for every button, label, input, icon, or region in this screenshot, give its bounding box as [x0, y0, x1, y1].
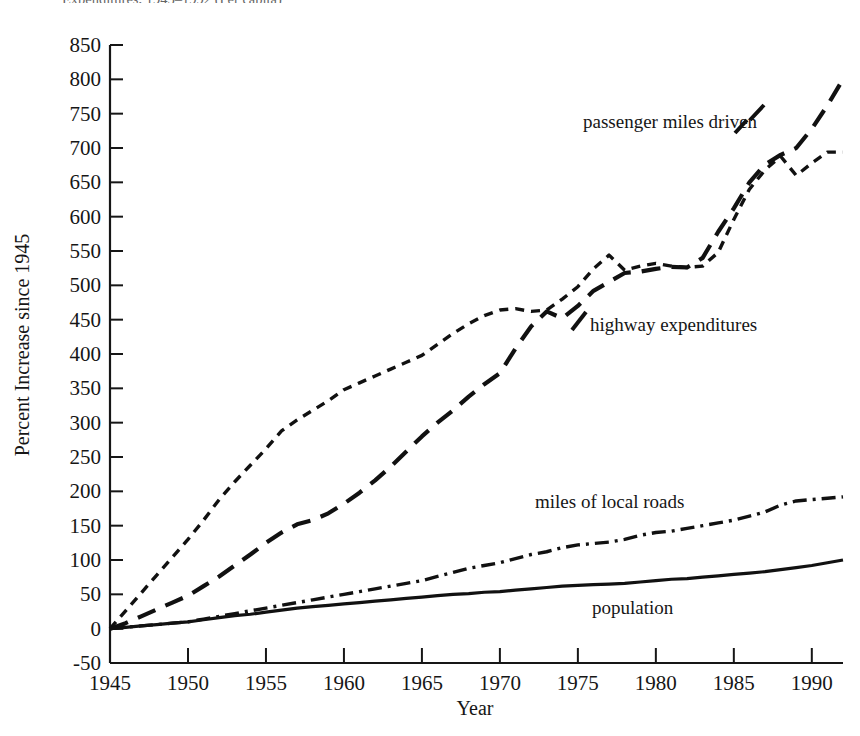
series-label-miles-of-local-roads: miles of local roads [535, 491, 684, 512]
x-tick-label: 1945 [89, 671, 131, 695]
y-tick-label: 800 [70, 67, 102, 91]
x-tick-label: 1960 [323, 671, 365, 695]
y-tick-label: 700 [70, 136, 102, 160]
x-tick-label: 1985 [713, 671, 755, 695]
clipped-page-caption: Expenditures, 1945–1992 (Per capita) [62, 0, 822, 3]
leader-highway-expenditures [572, 312, 586, 330]
y-tick-label: 850 [70, 33, 102, 57]
x-tick-label: 1975 [557, 671, 599, 695]
y-tick-label: 750 [70, 102, 102, 126]
y-tick-label: 50 [80, 582, 101, 606]
y-tick-label: 200 [70, 479, 102, 503]
chart-series-group [110, 79, 843, 628]
series-line-highway-expenditures [110, 152, 843, 629]
y-tick-label: 400 [70, 342, 102, 366]
x-tick-label: 1955 [245, 671, 287, 695]
series-line-population [110, 560, 843, 629]
y-tick-label: 600 [70, 205, 102, 229]
y-axis-ticks [110, 45, 123, 629]
chart-axes [110, 45, 843, 663]
x-tick-label: 1980 [635, 671, 677, 695]
y-tick-label: 300 [70, 411, 102, 435]
y-tick-label: 500 [70, 273, 102, 297]
y-tick-label: 250 [70, 445, 102, 469]
x-tick-label: 1970 [479, 671, 521, 695]
y-axis-title: Percent Increase since 1945 [11, 234, 33, 457]
series-label-passenger-miles-driven: passenger miles driven [583, 111, 758, 132]
series-label-population: population [592, 597, 674, 618]
y-tick-label: 100 [70, 548, 102, 572]
x-tick-label: 1950 [167, 671, 209, 695]
series-label-highway-expenditures: highway expenditures [590, 314, 757, 335]
line-chart: -500501001502002503003504004505005506006… [0, 0, 860, 736]
y-tick-label: 450 [70, 308, 102, 332]
y-tick-label: 650 [70, 170, 102, 194]
series-line-miles-of-local-roads [110, 497, 843, 629]
y-axis-tick-labels: -500501001502002503003504004505005506006… [70, 33, 102, 675]
x-axis-ticks [188, 648, 812, 663]
x-axis-tick-labels: 1945195019551960196519701975198019851990 [89, 671, 833, 695]
y-tick-label: 550 [70, 239, 102, 263]
y-tick-label: 350 [70, 376, 102, 400]
x-axis-title: Year [457, 697, 494, 719]
y-tick-label: 0 [91, 617, 102, 641]
y-tick-label: 150 [70, 514, 102, 538]
x-tick-label: 1965 [401, 671, 443, 695]
series-line-passenger-miles-driven [110, 79, 843, 628]
chart-figure: Expenditures, 1945–1992 (Per capita) -50… [0, 0, 860, 736]
x-tick-label: 1990 [791, 671, 833, 695]
